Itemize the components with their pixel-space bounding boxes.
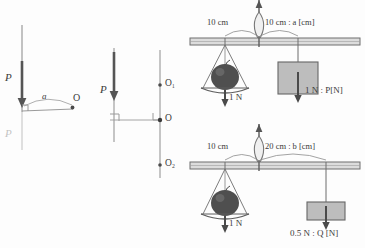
distance-arc xyxy=(24,99,72,106)
left-load-arrow-head xyxy=(221,99,228,107)
right-load-label: 1 N : P[N] xyxy=(305,86,343,95)
point-label-O: O xyxy=(165,114,172,124)
left-load-label: 1 N xyxy=(229,93,242,102)
force-distance-panel: P P a O xyxy=(0,0,100,160)
apple-highlight xyxy=(216,194,225,202)
span-arc-right xyxy=(260,31,298,37)
point-dot-O xyxy=(158,118,162,122)
point-dot-O1 xyxy=(158,83,162,87)
right-load-label: 0.5 N : Q [N] xyxy=(290,229,338,238)
force-arrow-head xyxy=(110,91,119,101)
apple-body xyxy=(211,64,239,90)
span-label-left: 10 cm xyxy=(207,18,228,27)
left-load-arrow-head xyxy=(221,225,228,233)
apple-highlight xyxy=(216,68,225,76)
span-arc-left xyxy=(225,155,258,161)
span-label-right: 20 cm : b [cm] xyxy=(265,142,315,151)
force-label-P: P xyxy=(5,72,12,83)
distance-label-a: a xyxy=(42,92,47,101)
pivot-points-panel: P O₁ O O₂ xyxy=(98,0,188,200)
span-label-right: 10 cm : a [cm] xyxy=(265,18,315,27)
figure-root: P P a O P O₁ O O₂ xyxy=(0,0,365,248)
balance-scale-bottom: 10 cm 20 cm : b [cm] 1 N 0.5 N : Q [N] xyxy=(185,124,365,248)
balance-scale-top: 10 cm 10 cm : a [cm] 1 N 1 N : P[N] xyxy=(185,0,365,118)
force-label-P: P xyxy=(100,84,107,95)
point-dot-O2 xyxy=(158,163,162,167)
pivot-label-O: O xyxy=(73,93,80,103)
span-arc-right xyxy=(260,154,326,160)
force-label-P-faded: P xyxy=(5,128,12,139)
point-label-O2: O₂ xyxy=(165,159,175,169)
force-distance-svg xyxy=(0,0,100,160)
force-arrow-head xyxy=(18,98,27,108)
point-label-O1: O₁ xyxy=(165,79,175,89)
pivot-point-dot xyxy=(71,106,75,110)
right-load-arrow-head xyxy=(294,95,301,103)
span-arc-left xyxy=(225,31,258,37)
arm-line xyxy=(22,109,73,111)
pivot-points-svg xyxy=(98,0,188,200)
fulcrum-pivot xyxy=(255,136,264,164)
fulcrum-pivot xyxy=(255,12,264,40)
span-label-left: 10 cm xyxy=(207,142,228,151)
apple-body xyxy=(211,190,239,216)
left-load-label: 1 N xyxy=(229,219,242,228)
support-arrow-head xyxy=(256,0,263,8)
support-arrow-head xyxy=(256,124,263,132)
